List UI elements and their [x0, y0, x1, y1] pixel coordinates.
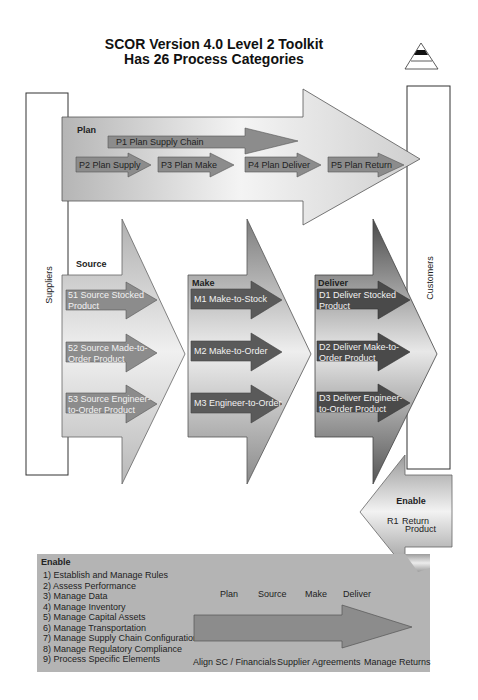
s1-line1: 51 Source Stocked [68, 290, 144, 300]
enable-top-label: Make [305, 589, 327, 599]
r1-line2: Product [405, 524, 437, 534]
enable-item: 8) Manage Regulatory Compliance [43, 644, 182, 654]
s1-line2: Product [68, 301, 100, 311]
m1-label: M1 Make-to-Stock [194, 294, 268, 304]
customers-label: Customers [425, 256, 435, 300]
source-label: Source [76, 259, 107, 269]
title-line-2: Has 26 Process Categories [124, 51, 304, 67]
scor-diagram: SCOR Version 4.0 Level 2 Toolkit Has 26 … [0, 0, 478, 700]
enable-bottom-label: Supplier Agreements [277, 657, 361, 667]
pyramid-icon [405, 43, 438, 69]
d2-line2: Order Product [319, 353, 376, 363]
enable-top-label: Source [258, 589, 287, 599]
p2-label: P2 Plan Supply [79, 160, 141, 170]
enable-item: 4) Manage Inventory [43, 602, 126, 612]
d1-line1: D1 Deliver Stocked [319, 290, 396, 300]
return-enable-label: Enable [396, 496, 426, 506]
make-sub-arrows: M1 Make-to-Stock M2 Make-to-Order M3 Eng… [191, 281, 282, 423]
s2-line1: 52 Source Made-to- [68, 343, 148, 353]
enable-item: 7) Manage Supply Chain Configuration [43, 633, 198, 643]
enable-top-label: Deliver [343, 589, 371, 599]
enable-bottom-labels: Align SC / Financials Supplier Agreement… [193, 657, 431, 667]
p5-label: P5 Plan Return [331, 160, 392, 170]
make-label: Make [192, 278, 215, 288]
d3-line1: D3 Deliver Engineer- [319, 393, 403, 403]
enable-item: 3) Manage Data [43, 591, 108, 601]
r1-code: R1 [387, 516, 399, 526]
s2-line2: Order Product [68, 354, 125, 364]
title-line-1: SCOR Version 4.0 Level 2 Toolkit [105, 36, 324, 52]
p3-label: P3 Plan Make [161, 160, 217, 170]
enable-item: 5) Manage Capital Assets [43, 612, 146, 622]
d3-line2: to-Order Product [319, 404, 387, 414]
enable-item: 2) Assess Performance [43, 581, 136, 591]
m2-label: M2 Make-to-Order [194, 346, 268, 356]
deliver-label: Deliver [318, 278, 349, 288]
enable-item: 6) Manage Transportation [43, 623, 146, 633]
enable-item: 9) Process Specific Elements [43, 654, 161, 664]
source-sub-arrows: 51 Source Stocked Product 52 Source Made… [66, 282, 157, 423]
s3-line1: 53 Source Engineer- [68, 394, 151, 404]
enable-label: Enable [41, 557, 71, 567]
suppliers-label: Suppliers [44, 266, 54, 304]
p1-label: P1 Plan Supply Chain [116, 137, 204, 147]
plan-label: Plan [77, 125, 96, 135]
m3-label: M3 Engineer-to-Order [194, 398, 282, 408]
enable-bottom-label: Manage Returns [364, 657, 431, 667]
enable-bottom-label: Align SC / Financials [193, 657, 277, 667]
enable-item: 1) Establish and Manage Rules [43, 570, 169, 580]
d2-line1: D2 Deliver Make-to- [319, 342, 399, 352]
p4-label: P4 Plan Deliver [248, 160, 310, 170]
d1-line2: Product [319, 301, 351, 311]
deliver-sub-arrows: D1 Deliver Stocked Product D2 Deliver Ma… [317, 281, 410, 422]
enable-top-label: Plan [220, 589, 238, 599]
s3-line2: to-Order Product [68, 405, 136, 415]
